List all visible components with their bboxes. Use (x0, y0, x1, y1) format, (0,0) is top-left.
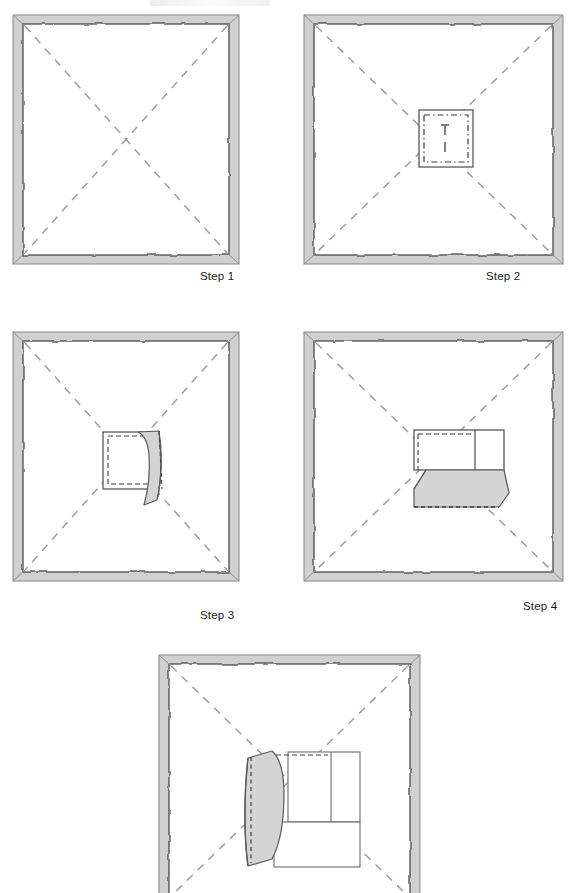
panel-step-5 (158, 654, 422, 893)
step-4-label: Step 4 (523, 600, 557, 612)
folded-flap (414, 470, 509, 507)
step-1-label: Step 1 (200, 270, 234, 282)
diagram-canvas: Step 1 Step 2 (0, 0, 572, 893)
pocket-upper-right (288, 752, 360, 822)
step-3-label: Step 3 (200, 609, 234, 621)
step-2-label: Step 2 (486, 270, 520, 282)
scan-artifact-top (150, 0, 270, 6)
panel-step-1 (12, 14, 240, 265)
center-square-outline (419, 110, 473, 167)
panel-step-3 (12, 331, 240, 582)
panel-step-4 (303, 331, 565, 582)
panel-step-2 (303, 14, 565, 265)
center-panel-upper (414, 430, 504, 470)
pocket-lower-right (274, 822, 360, 867)
